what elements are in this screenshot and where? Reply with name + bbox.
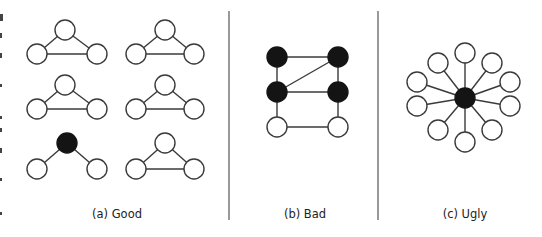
filled-node — [57, 133, 77, 153]
open-node — [184, 99, 204, 119]
graph — [267, 47, 348, 137]
graph — [126, 75, 204, 119]
open-node — [126, 44, 146, 64]
graph — [27, 133, 107, 179]
open-node — [407, 96, 427, 116]
filled-node — [328, 82, 348, 102]
filled-node — [267, 47, 287, 67]
open-node — [27, 99, 47, 119]
open-node — [482, 53, 502, 73]
cropped-text-fragments — [0, 14, 3, 215]
graph — [126, 133, 204, 179]
caption-ugly: (c) Ugly — [443, 207, 488, 221]
panel-ugly: (c) Ugly — [407, 43, 520, 221]
open-node — [428, 53, 448, 73]
graph — [27, 20, 107, 64]
open-node — [55, 20, 75, 40]
open-node — [267, 117, 287, 137]
open-node — [455, 43, 475, 63]
open-node — [55, 75, 75, 95]
graph — [407, 43, 520, 152]
panels: (a) Good(b) Bad(c) Ugly — [27, 20, 520, 221]
filled-node — [328, 47, 348, 67]
open-node — [428, 120, 448, 140]
open-node — [328, 117, 348, 137]
panel-bad: (b) Bad — [267, 47, 348, 221]
open-node — [87, 159, 107, 179]
graph — [27, 75, 107, 119]
caption-bad: (b) Bad — [284, 207, 326, 221]
open-node — [126, 159, 146, 179]
filled-node — [455, 88, 475, 108]
open-node — [87, 44, 107, 64]
open-node — [155, 133, 175, 153]
open-node — [500, 72, 520, 92]
panel-good: (a) Good — [27, 20, 204, 221]
open-node — [27, 159, 47, 179]
open-node — [184, 159, 204, 179]
open-node — [155, 75, 175, 95]
open-node — [500, 96, 520, 116]
open-node — [87, 99, 107, 119]
panel-dividers — [229, 11, 378, 220]
open-node — [455, 132, 475, 152]
graph — [126, 20, 204, 64]
open-node — [482, 120, 502, 140]
open-node — [126, 99, 146, 119]
open-node — [184, 44, 204, 64]
caption-good: (a) Good — [92, 207, 142, 221]
open-node — [155, 20, 175, 40]
open-node — [27, 44, 47, 64]
graph-comparison-diagram: (a) Good(b) Bad(c) Ugly — [0, 0, 542, 237]
filled-node — [267, 82, 287, 102]
open-node — [407, 72, 427, 92]
